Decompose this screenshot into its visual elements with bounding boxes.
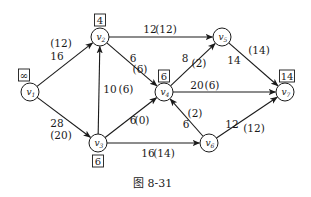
node-v5: v5 <box>213 28 231 46</box>
node-mark-v2: 4 <box>95 14 106 26</box>
flow-network-diagram: 16(12)28(20)10(6)12(12)6(6)6(0)16(14)8(2… <box>0 0 311 197</box>
mark-value: 4 <box>97 15 103 26</box>
mark-value: 14 <box>281 71 294 82</box>
edge-capacity-label: 14 <box>227 54 241 66</box>
edge-v1-v2 <box>37 43 92 87</box>
node-mark-v1: ∞ <box>19 69 30 81</box>
edge-flow-label: (12) <box>50 37 72 49</box>
mark-value: 6 <box>95 156 101 167</box>
node-v4: v4 <box>155 83 173 101</box>
edge-capacity-label: 16 <box>50 50 64 62</box>
edge-capacity-label: 10 <box>103 83 116 95</box>
edge-flow-label: (12) <box>155 23 177 35</box>
edge-flow-label: (6) <box>119 83 134 95</box>
node-mark-v7: 14 <box>280 70 295 82</box>
edge-capacity-label: 12 <box>225 118 238 130</box>
figure-caption: 图 8-31 <box>133 177 172 190</box>
node-v7: v7 <box>276 83 294 101</box>
edge-capacity-label: 8 <box>182 52 189 64</box>
node-v1: v1 <box>21 83 39 101</box>
node-mark-v4: 6 <box>159 70 170 82</box>
edge-capacity-label: 20 <box>190 79 203 91</box>
edge-flow-label: (0) <box>135 114 150 126</box>
edge-flow-label: (14) <box>153 147 175 159</box>
edge-capacity-label: 6 <box>183 118 190 130</box>
edge-flow-label: (2) <box>188 107 203 119</box>
edge-flow-label: (6) <box>205 79 220 91</box>
edge-v3-v2 <box>98 46 100 134</box>
edge-flow-label: (12) <box>243 122 265 134</box>
node-v6: v6 <box>200 134 218 152</box>
mark-value: 6 <box>161 71 167 82</box>
edge-flow-label: (2) <box>192 57 207 69</box>
node-v2: v2 <box>91 28 109 46</box>
edge-capacity-label: 28 <box>50 117 63 129</box>
mark-value: ∞ <box>20 70 28 81</box>
node-v3: v3 <box>89 134 107 152</box>
edge-flow-label: (14) <box>248 44 270 56</box>
node-mark-v3: 6 <box>93 155 104 167</box>
edge-flow-label: (6) <box>133 63 148 75</box>
edge-flow-label: (20) <box>50 129 72 141</box>
